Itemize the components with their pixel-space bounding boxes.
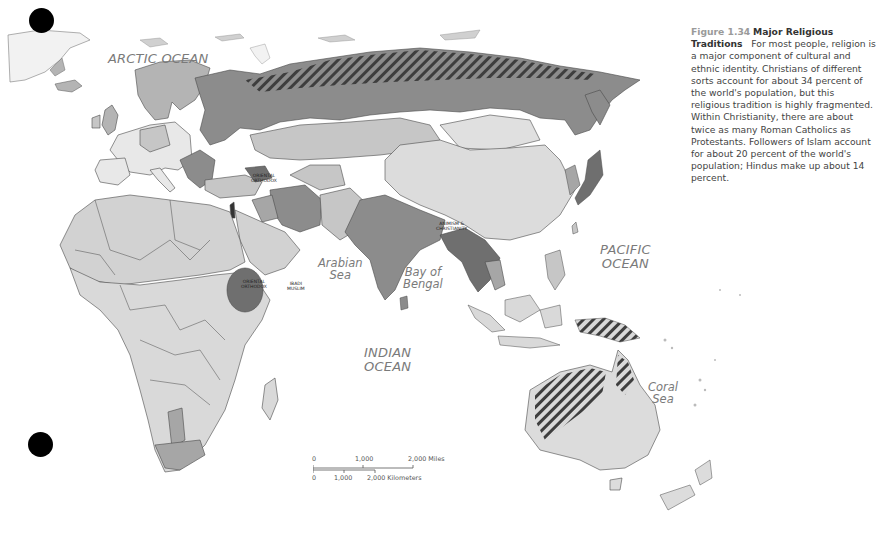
caucasus-label-line2: Orthodox (251, 179, 277, 184)
figure-body: For most people, religion is a major com… (691, 38, 876, 183)
figure-number: Figure 1.34 (691, 26, 750, 37)
pacific-ocean-label: PACIFIC OCEAN (600, 243, 651, 270)
caucasus-region-label: Oriental Orthodox (251, 174, 277, 184)
figure-caption: Figure 1.34 Major Religious Traditions F… (691, 26, 876, 185)
scale-miles-0: 0 (312, 455, 316, 463)
myanmar-label-line2: Christianity (436, 227, 467, 232)
bay-of-bengal-line2: Bengal (403, 278, 443, 290)
indian-ocean-line2: OCEAN (364, 360, 411, 374)
coral-sea-line2: Sea (648, 393, 678, 405)
scale-miles-2000: 2,000 Miles (408, 455, 445, 463)
pacific-ocean-line2: OCEAN (600, 257, 651, 271)
pacific-ocean-line1: PACIFIC (600, 243, 651, 257)
ethiopia-label-line2: Orthodox (241, 285, 267, 290)
arabian-sea-line2: Sea (318, 269, 362, 281)
myanmar-region-label: Animism & Christianity (436, 222, 467, 232)
somalia-label-line2: Muslim (287, 287, 305, 292)
scale-miles-1000: 1,000 (355, 455, 373, 463)
scale-km-1000: 1,000 (334, 474, 352, 482)
coral-sea-label: Coral Sea (648, 381, 678, 405)
scale-bar: 0 1,000 2,000 Miles 0 1,000 2,000 Kilome… (310, 455, 470, 485)
scale-km-2000: 2,000 Kilometers (367, 474, 422, 482)
ethiopia-region-label: Oriental Orthodox (241, 280, 267, 290)
marker-dot-top (29, 8, 54, 33)
somalia-region-label: Ibadi Muslim (287, 282, 305, 292)
marker-dot-bottom (28, 432, 53, 457)
scale-km-0: 0 (312, 474, 316, 482)
bay-of-bengal-label: Bay of Bengal (403, 266, 443, 290)
arctic-ocean-label: ARCTIC OCEAN (108, 52, 209, 66)
indian-ocean-label: INDIAN OCEAN (364, 346, 411, 373)
indian-ocean-line1: INDIAN (364, 346, 411, 360)
arabian-sea-label: Arabian Sea (318, 257, 362, 281)
